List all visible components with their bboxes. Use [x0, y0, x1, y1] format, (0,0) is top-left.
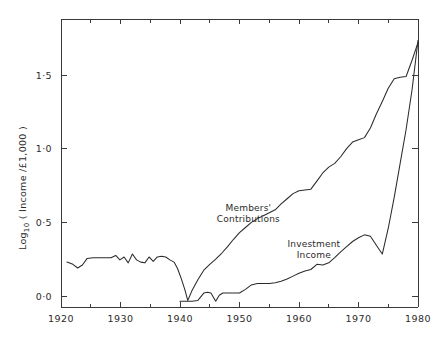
annotation-investment-income: InvestmentIncome	[287, 239, 340, 260]
y-axis-title-subscript: 10	[23, 223, 31, 233]
series-annotations: Members'ContributionsInvestmentIncome	[217, 203, 341, 261]
x-tick-label-1980: 1980	[405, 313, 431, 324]
x-tick-label-1920: 1920	[48, 313, 74, 324]
annotation-line-1: Members'	[226, 203, 272, 213]
x-axis-ticks	[61, 19, 418, 307]
y-axis-title-main: Log	[17, 232, 28, 250]
y-axis-ticks	[61, 75, 418, 296]
annotation-line-1: Investment	[287, 239, 340, 249]
x-tick-label-1940: 1940	[167, 313, 193, 324]
x-tick-label-1970: 1970	[346, 313, 372, 324]
y-tick-label-1·0: 1·0	[36, 143, 52, 154]
annotation-members-contributions: Members'Contributions	[217, 203, 280, 224]
x-axis-minor-ticks	[91, 19, 389, 307]
y-axis-title: Log10 ( Income /£1,000 )	[17, 126, 31, 250]
plot-frame	[61, 19, 418, 307]
y-axis-tick-labels: 0·00·51·01·5	[36, 70, 52, 302]
annotation-line-2: Contributions	[217, 214, 280, 224]
annotation-line-2: Income	[297, 250, 332, 260]
series-line-investment-income	[180, 40, 418, 301]
chart-figure: 1920193019401950196019701980 0·00·51·01·…	[0, 0, 446, 341]
y-axis-title-units: ( Income /£1,000 )	[17, 126, 28, 219]
y-tick-label-1·5: 1·5	[36, 70, 52, 81]
x-tick-label-1950: 1950	[227, 313, 253, 324]
line-chart: 1920193019401950196019701980 0·00·51·01·…	[0, 0, 446, 341]
y-tick-label-0·0: 0·0	[36, 291, 52, 302]
x-axis-tick-labels: 1920193019401950196019701980	[48, 313, 431, 324]
series-line-members-contributions	[67, 43, 418, 301]
x-tick-label-1960: 1960	[286, 313, 312, 324]
data-series-group	[67, 40, 418, 301]
y-tick-label-0·5: 0·5	[36, 217, 52, 228]
x-tick-label-1930: 1930	[108, 313, 134, 324]
svg-text:Log10 ( Income /£1,000 ): Log10 ( Income /£1,000 )	[17, 126, 31, 250]
